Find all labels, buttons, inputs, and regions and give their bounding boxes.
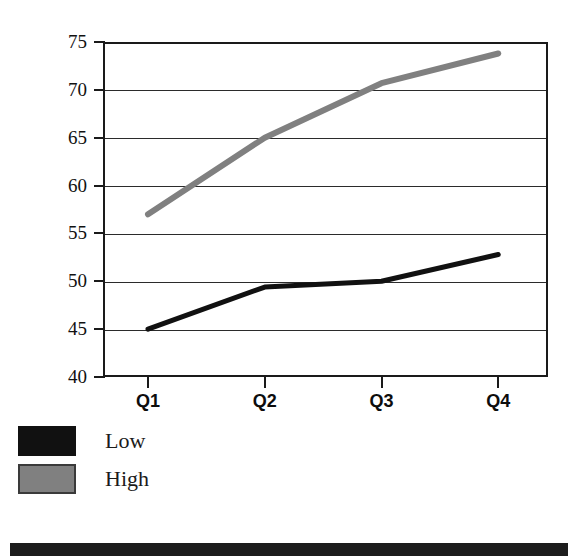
x-tick-label-q4: Q4: [486, 391, 510, 412]
legend-item-high: High: [18, 460, 238, 498]
legend-label-low: Low: [105, 430, 145, 452]
y-tick-label-65: 65: [68, 127, 87, 149]
x-tick-label-q1: Q1: [136, 391, 160, 412]
legend-label-high: High: [105, 468, 149, 490]
legend-item-low: Low: [18, 422, 238, 460]
x-tick-label-q2: Q2: [253, 391, 277, 412]
gridline-45: [105, 330, 546, 331]
gridline-50: [105, 282, 546, 283]
y-tick-label-75: 75: [68, 31, 87, 53]
page-edge-bar: [10, 543, 568, 556]
legend-swatch-low-icon: [18, 426, 76, 456]
line-chart-figure: 75 70 65 60 55 50 45 40 Q1 Q2 Q3 Q4 Low …: [0, 0, 578, 559]
y-tick-label-45: 45: [68, 318, 87, 340]
chart-legend: Low High: [18, 422, 238, 498]
gridline-65: [105, 138, 546, 139]
x-tick-mark-q3: [381, 377, 383, 388]
y-tick-label-70: 70: [68, 79, 87, 101]
x-tick-label-q3: Q3: [369, 391, 393, 412]
x-tick-mark-q4: [497, 377, 499, 388]
gridline-55: [105, 234, 546, 235]
y-tick-label-55: 55: [68, 222, 87, 244]
gridline-60: [105, 186, 546, 187]
y-tick-label-50: 50: [68, 270, 87, 292]
y-tick-label-60: 60: [68, 175, 87, 197]
legend-swatch-high-icon: [18, 464, 76, 494]
plot-area: [103, 42, 548, 377]
x-tick-mark-q2: [264, 377, 266, 388]
x-tick-mark-q1: [147, 377, 149, 388]
gridline-70: [105, 90, 546, 91]
y-tick-label-40: 40: [68, 366, 87, 388]
